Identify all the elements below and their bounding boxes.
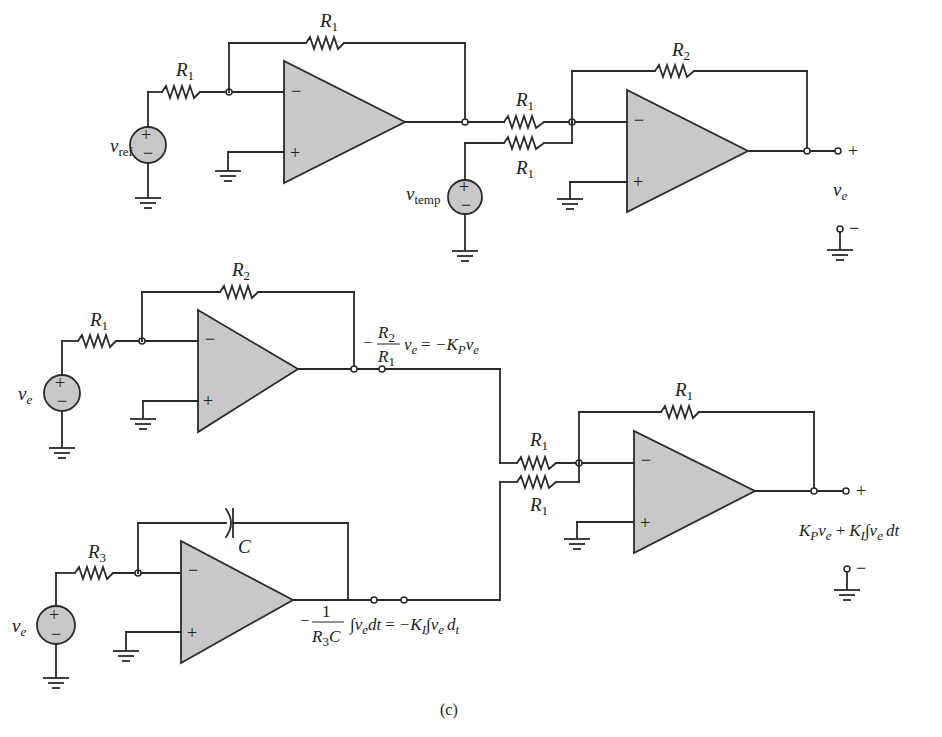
svg-text:1: 1 [322,602,331,621]
svg-text:+: + [633,172,643,192]
svg-text:+: + [856,481,866,501]
svg-text:−: − [57,391,67,411]
ground-icon [452,251,478,261]
svg-text:+: + [141,125,151,145]
svg-text:+: + [290,143,300,163]
ve-source-label-1: ve [18,383,32,407]
vref-source: + − vref [110,92,166,208]
integral-output-equation: − 1 R3C ∫vedt=−KI∫vedt [300,602,459,649]
resistor-icon [655,65,694,77]
r1-summer-b-label: R1 [515,157,534,181]
figure-caption: (c) [440,701,458,719]
output-terminal-plus [835,148,841,154]
ve-source-label-2: ve [12,615,26,639]
resistor-icon [517,457,556,469]
svg-text:∫vedt=−KI∫vedt: ∫vedt=−KI∫vedt [349,615,459,637]
svg-text:−: − [363,333,373,352]
svg-text:−: − [634,110,644,130]
ve-output-label: ve [833,179,847,203]
r1-feedback-label: R1 [319,10,338,34]
ground-icon [43,678,69,688]
adder-stage: R1 R1 R1 − + + KPve+KI∫vedt − [500,379,900,600]
svg-text:−: − [205,329,215,349]
vtemp-label: vtemp [406,183,440,207]
svg-text:+: + [49,605,59,625]
svg-text:R3C: R3C [311,627,341,649]
svg-text:R1: R1 [377,347,395,369]
svg-text:−: − [641,450,651,470]
svg-text:+: + [848,141,858,161]
r1-summer-a-label: R1 [515,89,534,113]
svg-text:−: − [143,143,153,163]
r1-prop-label: R1 [89,309,108,333]
svg-text:+: + [640,513,650,533]
resistor-icon [504,116,544,128]
ground-icon [827,250,853,260]
resistor-icon [162,86,200,98]
ground-icon [130,419,156,429]
resistor-icon [220,286,258,298]
r2-summer-label: R2 [671,39,690,63]
svg-text:+: + [203,391,213,411]
output-terminal-plus [843,488,849,494]
svg-text:ve=−KPve: ve=−KPve [404,335,479,357]
resistor-icon [78,335,116,347]
svg-text:−: − [461,195,471,215]
r1-adder-feedback-label: R1 [674,379,693,403]
svg-text:−: − [300,611,310,630]
r2-prop-label: R2 [231,259,250,283]
resistor-icon [75,567,113,579]
svg-text:−: − [51,624,61,644]
opamp2-icon [627,90,748,212]
resistor-icon [504,137,544,149]
ground-icon [557,199,583,209]
ground-icon [113,651,139,661]
pi-output-label: KPve+KI∫vedt [798,521,900,543]
resistor-icon [661,406,699,418]
resistor-icon [517,476,556,488]
vref-label: vref [110,135,134,159]
resistor-icon [306,37,344,49]
integral-stage: + − ve R3 C − + − 1 R3C ∫vedt=−KI∫vedt [12,482,500,688]
ground-icon [215,171,241,181]
svg-text:R2: R2 [377,323,395,345]
r1-adder-a-label: R1 [529,429,548,453]
proportional-stage: + − ve R1 R2 − + − R2 R1 ve=−KPve [18,259,500,463]
opamp5-icon [634,431,755,553]
ground-icon [49,448,75,458]
r1-input-label: R1 [175,59,194,83]
svg-text:−: − [849,218,859,238]
r1-adder-b-label: R1 [529,494,548,518]
svg-text:−: − [291,81,301,101]
top-circuit: + − vref R1 R1 − + R1 R1 [110,10,859,261]
opamp1-icon [284,61,405,183]
svg-text:+: + [55,373,65,393]
ground-icon [564,539,590,549]
svg-text:+: + [187,623,197,643]
r3-label: R3 [87,541,106,565]
ground-icon [135,198,161,208]
svg-text:−: − [856,558,866,578]
capacitor-label: C [238,536,251,557]
vtemp-source: + − vtemp [406,177,482,261]
proportional-output-equation: − R2 R1 ve=−KPve [363,323,479,369]
pi-controller-schematic: + − vref R1 R1 − + R1 R1 [0,0,942,737]
svg-text:+: + [459,177,469,197]
svg-text:−: − [188,560,198,580]
ground-icon [834,590,860,600]
